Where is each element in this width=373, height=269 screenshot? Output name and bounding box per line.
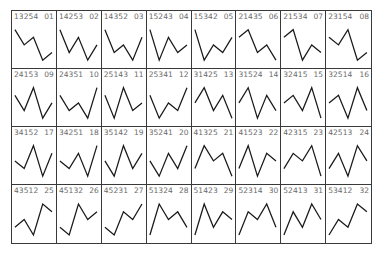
glyph-panel: 3425118 <box>57 127 102 185</box>
zigzag-line-glyph <box>147 185 191 243</box>
glyph-panel: 3241515 <box>281 69 326 127</box>
glyph-panel: 2435110 <box>57 69 102 127</box>
glyph-panel: 3524120 <box>147 127 192 185</box>
zigzag-line-glyph <box>192 127 236 184</box>
glyph-panel: 4231523 <box>281 127 326 185</box>
zigzag-line-glyph <box>57 69 101 126</box>
zigzag-line-glyph <box>281 69 325 126</box>
glyph-panel: 5231430 <box>236 185 281 243</box>
zigzag-line-glyph <box>236 185 280 243</box>
zigzag-line-glyph <box>147 11 191 68</box>
glyph-panel: 2415309 <box>12 69 57 127</box>
glyph-panel: 3142513 <box>192 69 237 127</box>
zigzag-line-glyph <box>102 127 146 184</box>
zigzag-line-glyph <box>102 69 146 126</box>
glyph-panel: 3251416 <box>326 69 371 127</box>
zigzag-line-glyph <box>281 185 325 243</box>
glyph-panel: 3415217 <box>12 127 57 185</box>
zigzag-line-glyph <box>57 11 101 68</box>
zigzag-line-glyph <box>281 127 325 184</box>
zigzag-line-glyph <box>326 69 371 126</box>
glyph-panel: 4513226 <box>57 185 102 243</box>
glyph-panel: 1425302 <box>57 11 102 69</box>
glyph-panel: 4351225 <box>12 185 57 243</box>
zigzag-line-glyph <box>281 11 325 68</box>
glyph-panel: 5241331 <box>281 185 326 243</box>
zigzag-line-glyph <box>236 69 280 126</box>
glyph-panel: 2143506 <box>236 11 281 69</box>
zigzag-line-glyph <box>12 127 56 184</box>
zigzag-line-glyph <box>12 11 56 68</box>
zigzag-line-glyph <box>57 185 101 243</box>
zigzag-line-glyph <box>102 11 146 68</box>
glyph-panel: 4152322 <box>236 127 281 185</box>
zigzag-line-glyph <box>326 127 371 184</box>
zigzag-line-glyph <box>147 127 191 184</box>
zigzag-line-glyph <box>192 11 236 68</box>
glyph-panel: 3152414 <box>236 69 281 127</box>
glyph-panel: 5142329 <box>192 185 237 243</box>
zigzag-line-glyph <box>236 127 280 184</box>
glyph-panel: 3514219 <box>102 127 147 185</box>
zigzag-line-glyph <box>192 185 236 243</box>
glyph-panel: 2153407 <box>281 11 326 69</box>
glyph-panel: 1524304 <box>147 11 192 69</box>
glyph-panel: 2534112 <box>147 69 192 127</box>
zigzag-line-glyph <box>57 127 101 184</box>
glyph-panel: 2315408 <box>326 11 371 69</box>
zigzag-line-glyph <box>147 69 191 126</box>
glyph-panel: 5132428 <box>147 185 192 243</box>
glyph-panel: 2514311 <box>102 69 147 127</box>
zigzag-line-glyph <box>12 185 56 243</box>
zigzag-line-glyph <box>236 11 280 68</box>
glyph-grid: 1325401142530214352031524304153420521435… <box>11 10 372 244</box>
glyph-panel: 4132521 <box>192 127 237 185</box>
zigzag-line-glyph <box>326 185 371 243</box>
zigzag-line-glyph <box>102 185 146 243</box>
glyph-panel: 4523127 <box>102 185 147 243</box>
zigzag-line-glyph <box>192 69 236 126</box>
zigzag-line-glyph <box>12 69 56 126</box>
zigzag-line-glyph <box>326 11 371 68</box>
glyph-panel: 1325401 <box>12 11 57 69</box>
glyph-panel: 5341232 <box>326 185 371 243</box>
glyph-panel: 1534205 <box>192 11 237 69</box>
glyph-panel: 4251324 <box>326 127 371 185</box>
glyph-panel: 1435203 <box>102 11 147 69</box>
